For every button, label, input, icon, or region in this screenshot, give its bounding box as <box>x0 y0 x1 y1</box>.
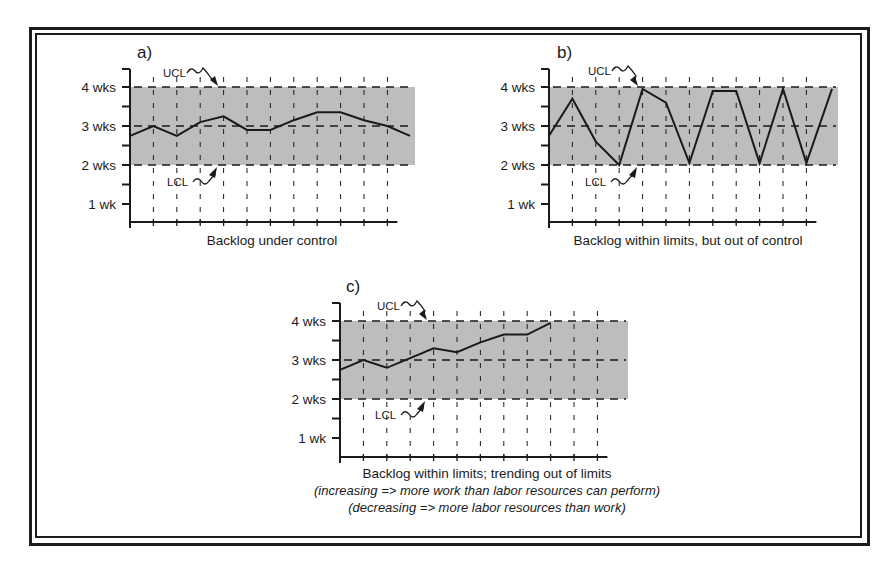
panel-label: b) <box>557 43 572 62</box>
annotation-increasing: (increasing => more work than labor reso… <box>314 483 660 498</box>
chart-a-backlog-under-control: a) UCL LCL 4 wks 3 wks 2 wks 1 wk Backlo… <box>81 43 415 248</box>
ucl-label: UCL <box>588 65 612 77</box>
chart-caption: Backlog within limits, but out of contro… <box>574 233 803 248</box>
lcl-label: LCL <box>585 176 607 188</box>
panel-label: c) <box>346 277 360 296</box>
chart-caption: Backlog under control <box>207 233 338 248</box>
y-tick-label-3wks: 3 wks <box>500 119 535 134</box>
y-tick-label-2wks: 2 wks <box>291 392 326 407</box>
annotation-decreasing: (decreasing => more labor resources than… <box>348 500 625 515</box>
ucl-arrowhead <box>419 310 427 320</box>
y-tick-label-4wks: 4 wks <box>500 80 535 95</box>
ucl-arrowhead <box>630 76 638 86</box>
panel-label: a) <box>137 43 152 62</box>
lcl-label: LCL <box>375 409 397 421</box>
lcl-arrowhead <box>209 167 217 178</box>
y-axis-ticks <box>122 87 130 204</box>
ucl-label: UCL <box>377 300 401 312</box>
lcl-label: LCL <box>167 176 189 188</box>
y-tick-label-3wks: 3 wks <box>291 353 326 368</box>
y-axis-ticks <box>332 321 340 438</box>
control-charts-figure: a) UCL LCL 4 wks 3 wks 2 wks 1 wk Backlo… <box>0 0 889 570</box>
y-tick-label-2wks: 2 wks <box>500 158 535 173</box>
y-tick-label-3wks: 3 wks <box>81 119 116 134</box>
y-axis-ticks <box>541 87 549 204</box>
lcl-arrowhead <box>629 167 637 178</box>
y-tick-label-4wks: 4 wks <box>81 80 116 95</box>
y-tick-label-1wk: 1 wk <box>88 197 116 212</box>
y-tick-label-1wk: 1 wk <box>298 431 326 446</box>
y-tick-label-2wks: 2 wks <box>81 158 116 173</box>
y-tick-label-1wk: 1 wk <box>507 197 535 212</box>
ucl-label: UCL <box>163 67 187 79</box>
chart-b-backlog-out-of-control: b) UCL LCL 4 wks 3 wks 2 wks 1 wk Backlo… <box>500 43 838 248</box>
chart-caption: Backlog within limits; trending out of l… <box>362 466 611 481</box>
lcl-arrowhead <box>417 401 425 412</box>
y-tick-label-4wks: 4 wks <box>291 314 326 329</box>
chart-c-backlog-trending: c) UCL LCL 4 wks 3 wks 2 wks 1 wk Backlo… <box>291 277 660 515</box>
